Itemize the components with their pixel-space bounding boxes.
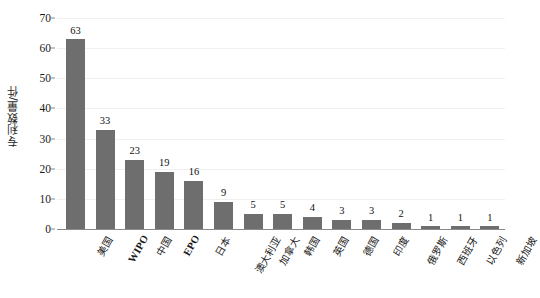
bar-group[interactable]: 33 bbox=[96, 18, 115, 229]
bar[interactable] bbox=[66, 39, 85, 229]
y-axis-tick-label: 10 bbox=[40, 193, 52, 205]
x-axis-tick-labels: 美国WIPO中国EPO日本澳大利亚加拿大韩国英国德国印度俄罗斯西班牙以色列新加坡 bbox=[57, 231, 505, 298]
bar-value-label: 33 bbox=[100, 116, 111, 127]
y-axis-tick-mark bbox=[51, 168, 55, 169]
bar-value-label: 3 bbox=[369, 206, 374, 217]
bar-value-label: 2 bbox=[398, 209, 403, 220]
bar[interactable] bbox=[273, 214, 292, 229]
bar[interactable] bbox=[332, 220, 351, 229]
y-axis-tick-label: 50 bbox=[40, 72, 52, 84]
bar-value-label: 19 bbox=[159, 158, 170, 169]
y-axis-tick-labels: 010203040506070 bbox=[22, 18, 55, 229]
bar-value-label: 1 bbox=[428, 213, 433, 224]
x-axis-tick-label: 美国 bbox=[92, 233, 115, 258]
bar-group[interactable]: 19 bbox=[155, 18, 174, 229]
bar[interactable] bbox=[125, 160, 144, 229]
bar[interactable] bbox=[214, 202, 233, 229]
x-axis-tick-label: 韩国 bbox=[299, 233, 322, 258]
bar-group[interactable]: 9 bbox=[214, 18, 233, 229]
bar-group[interactable]: 4 bbox=[303, 18, 322, 229]
y-axis-tick-label: 30 bbox=[40, 133, 52, 145]
bars-layer: 63332319169554332111 bbox=[57, 18, 505, 229]
bar-value-label: 16 bbox=[189, 167, 200, 178]
y-axis-tick-mark bbox=[51, 48, 55, 49]
x-axis-tick-label: 西班牙 bbox=[452, 233, 480, 267]
bar[interactable] bbox=[96, 130, 115, 229]
axis-baseline bbox=[57, 229, 505, 230]
y-axis-tick-mark bbox=[51, 138, 55, 139]
y-axis-tick-mark bbox=[51, 108, 55, 109]
bar-value-label: 5 bbox=[280, 200, 285, 211]
bar-value-label: 23 bbox=[129, 146, 140, 157]
x-axis-tick-label: WIPO bbox=[126, 233, 151, 264]
y-axis-title-text: 专利数量/件 bbox=[6, 85, 22, 147]
bar[interactable] bbox=[421, 226, 440, 229]
x-axis-tick-label: 印度 bbox=[388, 233, 411, 258]
bar-group[interactable]: 63 bbox=[66, 18, 85, 229]
bar-group[interactable]: 5 bbox=[273, 18, 292, 229]
bar-value-label: 5 bbox=[250, 200, 255, 211]
bar-group[interactable]: 1 bbox=[421, 18, 440, 229]
bar[interactable] bbox=[184, 181, 203, 229]
bar-group[interactable]: 5 bbox=[244, 18, 263, 229]
bar-group[interactable]: 1 bbox=[451, 18, 470, 229]
y-axis-tick-label: 20 bbox=[40, 163, 52, 175]
x-axis-tick-label: EPO bbox=[181, 233, 202, 258]
y-axis-tick-mark bbox=[51, 18, 55, 19]
x-axis-tick-label: 新加坡 bbox=[511, 233, 539, 267]
x-axis-tick-label: 日本 bbox=[210, 233, 233, 258]
bar-group[interactable]: 1 bbox=[480, 18, 499, 229]
bar[interactable] bbox=[392, 223, 411, 229]
bar-value-label: 1 bbox=[487, 213, 492, 224]
bar[interactable] bbox=[303, 217, 322, 229]
x-axis-tick-label: 英国 bbox=[329, 233, 352, 258]
bar-value-label: 9 bbox=[221, 188, 226, 199]
bar-value-label: 3 bbox=[339, 206, 344, 217]
x-axis-tick-label: 中国 bbox=[151, 233, 174, 258]
y-axis-tick-label: 70 bbox=[40, 12, 52, 24]
plot-area: 63332319169554332111 bbox=[57, 18, 505, 229]
y-axis-tick-label: 60 bbox=[40, 42, 52, 54]
x-axis-tick-label: 俄罗斯 bbox=[422, 233, 450, 267]
bar[interactable] bbox=[244, 214, 263, 229]
bar-group[interactable]: 16 bbox=[184, 18, 203, 229]
x-axis-tick-label: 德国 bbox=[358, 233, 381, 258]
y-axis-tick-label: 40 bbox=[40, 102, 52, 114]
y-axis-tick-mark bbox=[51, 78, 55, 79]
bar-value-label: 63 bbox=[70, 26, 81, 37]
bar-value-label: 4 bbox=[310, 203, 315, 214]
bar[interactable] bbox=[362, 220, 381, 229]
bar-group[interactable]: 3 bbox=[332, 18, 351, 229]
bar[interactable] bbox=[480, 226, 499, 229]
bar[interactable] bbox=[155, 172, 174, 229]
x-axis-tick-label: 以色列 bbox=[482, 233, 510, 267]
bar-group[interactable]: 3 bbox=[362, 18, 381, 229]
bar[interactable] bbox=[451, 226, 470, 229]
bar-group[interactable]: 23 bbox=[125, 18, 144, 229]
bar-value-label: 1 bbox=[458, 213, 463, 224]
y-axis-tick-mark bbox=[51, 229, 55, 230]
y-axis-tick-mark bbox=[51, 198, 55, 199]
bar-group[interactable]: 2 bbox=[392, 18, 411, 229]
